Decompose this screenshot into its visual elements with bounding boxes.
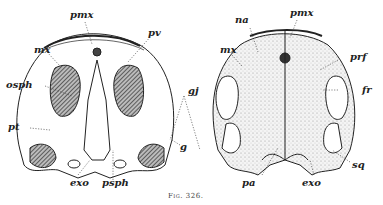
label-pmx-dorsal: pmx	[290, 8, 314, 18]
label-psph: psph	[102, 178, 129, 188]
skull-drawings	[0, 0, 383, 205]
label-pt: pt	[8, 122, 20, 132]
label-pa: pa	[242, 178, 255, 188]
label-g: g	[180, 142, 187, 152]
label-fr: fr	[362, 85, 372, 95]
label-pmx-ventral: pmx	[70, 10, 94, 20]
label-na: na	[235, 15, 249, 25]
figure-caption: Fig. 326.	[168, 192, 203, 200]
skull-figure: pmx pv mx osph pt g exo psph gj na pmx m…	[0, 0, 383, 205]
label-sq: sq	[352, 160, 365, 170]
label-mx-dorsal: mx	[220, 45, 237, 55]
label-pv: pv	[148, 28, 161, 38]
label-exo-dorsal: exo	[302, 178, 321, 188]
ventral-skull	[17, 34, 174, 178]
label-prf: prf	[350, 52, 367, 62]
label-gj: gj	[188, 86, 199, 96]
label-exo-ventral: exo	[70, 178, 89, 188]
label-mx-ventral: mx	[34, 45, 51, 55]
label-osph: osph	[6, 80, 33, 90]
